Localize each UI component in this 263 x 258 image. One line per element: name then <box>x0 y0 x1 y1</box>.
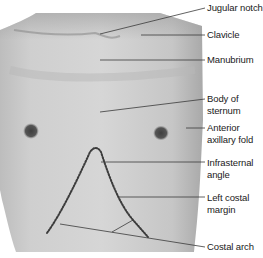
label-manubrium: Manubrium <box>207 54 254 66</box>
right-nipple <box>23 123 39 139</box>
label-costal-arch: Costal arch <box>207 241 254 253</box>
label-left-costal-margin: Left costal margin <box>207 192 249 215</box>
label-body-of-sternum: Body of sternum <box>207 93 241 116</box>
label-jugular-notch: Jugular notch <box>207 2 263 14</box>
chest-anatomy-figure: Jugular notch Clavicle Manubrium Body of… <box>0 0 263 258</box>
label-clavicle: Clavicle <box>207 29 239 41</box>
label-infrasternal-angle: Infrasternal angle <box>207 157 253 180</box>
label-anterior-axillary-fold: Anterior axillary fold <box>207 122 253 145</box>
left-nipple <box>153 126 169 141</box>
